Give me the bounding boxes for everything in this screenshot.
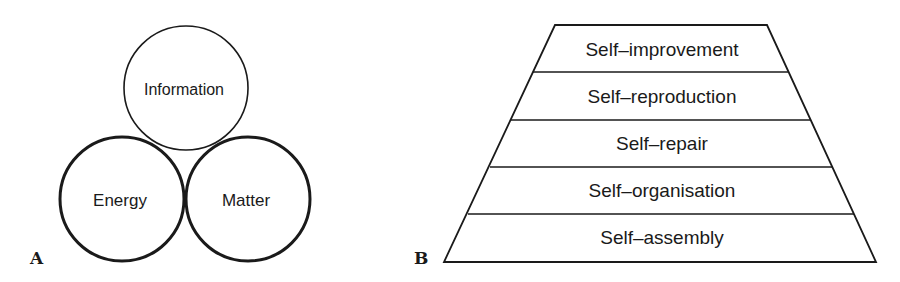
level-self-reproduction: Self–reproduction <box>588 86 737 107</box>
information-label: Information <box>144 81 224 98</box>
level-self-improvement: Self–improvement <box>585 39 739 60</box>
level-self-assembly: Self–assembly <box>600 227 724 248</box>
figure: Information Energy Matter A Self–improve… <box>0 0 900 282</box>
level-self-repair: Self–repair <box>616 133 709 154</box>
level-self-organisation: Self–organisation <box>589 180 736 201</box>
matter-label: Matter <box>222 191 271 210</box>
panel-b-label: B <box>414 248 428 268</box>
panel-b: Self–improvement Self–reproduction Self–… <box>414 25 876 268</box>
panel-a-label: A <box>29 248 44 268</box>
panel-a: Information Energy Matter A <box>29 26 310 268</box>
energy-label: Energy <box>93 191 147 210</box>
